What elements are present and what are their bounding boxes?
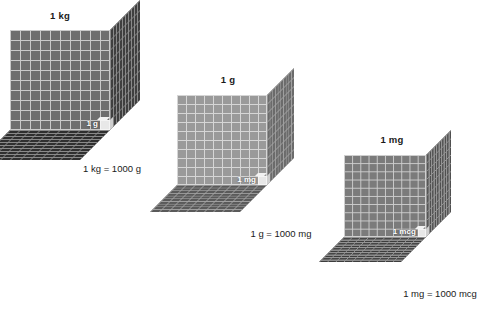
milligram-cube-unit-cell-front — [418, 229, 426, 237]
gram-cube-unit-cell-front — [258, 176, 267, 185]
gram-cube-unit-label: 1 mg — [237, 175, 256, 184]
kilogram-cube-caption: 1 kg = 1000 g — [37, 163, 187, 174]
gram-cube-unit-cell-top — [255, 173, 267, 176]
milligram-cube-unit-cell-right — [426, 226, 429, 237]
kilogram-cube-unit-cell-top — [97, 117, 110, 120]
gram-cube: 1 g1 mg1 g = 1000 mg — [0, 0, 504, 319]
milligram-cube-title: 1 mg — [332, 134, 452, 145]
milligram-cube-caption: 1 mg = 1000 mcg — [365, 288, 504, 299]
kilogram-cube-unit-cell-front — [100, 120, 110, 130]
kilogram-cube-bottom-face — [0, 130, 110, 160]
milligram-cube-front-face — [344, 155, 426, 237]
gram-cube-bottom-face — [150, 185, 267, 212]
milligram-cube-unit-label: 1 mcg — [393, 228, 416, 236]
kilogram-cube-title: 1 kg — [0, 10, 120, 21]
gram-cube-right-face — [267, 68, 294, 185]
milligram-cube-unit-cell — [418, 229, 426, 237]
figure-canvas: 1 kg1 g1 kg = 1000 g1 g1 mg1 g = 1000 mg… — [0, 0, 504, 319]
milligram-cube-body: 1 mcg — [344, 155, 426, 237]
milligram-cube-unit-cell-top — [415, 226, 426, 229]
kilogram-cube: 1 kg1 g1 kg = 1000 g — [0, 0, 504, 319]
kilogram-cube-front-face — [10, 30, 110, 130]
gram-cube-caption: 1 g = 1000 mg — [206, 228, 356, 239]
milligram-cube-bottom-face — [319, 237, 426, 262]
kilogram-cube-right-face — [110, 0, 140, 130]
kilogram-cube-unit-label: 1 g — [86, 119, 98, 129]
gram-cube-unit-cell-right — [267, 173, 270, 185]
kilogram-cube-unit-cell — [100, 120, 110, 130]
gram-cube-title: 1 g — [168, 74, 288, 85]
milligram-cube-right-face — [426, 130, 451, 237]
gram-cube-front-face — [177, 95, 267, 185]
gram-cube-unit-cell — [258, 176, 267, 185]
kilogram-cube-unit-cell-right — [110, 117, 113, 130]
gram-cube-body: 1 mg — [177, 95, 267, 185]
kilogram-cube-body: 1 g — [10, 30, 110, 130]
milligram-cube: 1 mg1 mcg1 mg = 1000 mcg — [0, 0, 504, 319]
